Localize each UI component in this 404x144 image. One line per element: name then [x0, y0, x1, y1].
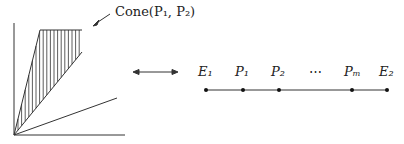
point-label: Pₘ — [344, 64, 361, 79]
ellipsis: ⋯ — [309, 64, 322, 79]
cone-label: Cone(P₁, P₂) — [115, 4, 195, 19]
sequence-point — [385, 88, 389, 92]
point-label: E₂ — [379, 64, 394, 79]
sequence-point — [204, 88, 208, 92]
sequence-point — [350, 88, 354, 92]
point-label: P₂ — [271, 64, 285, 79]
pointer-arrowhead — [93, 20, 99, 26]
sequence-point — [241, 88, 245, 92]
point-label: P₁ — [235, 64, 249, 79]
point-label: E₁ — [198, 64, 213, 79]
sequence-point — [277, 88, 281, 92]
